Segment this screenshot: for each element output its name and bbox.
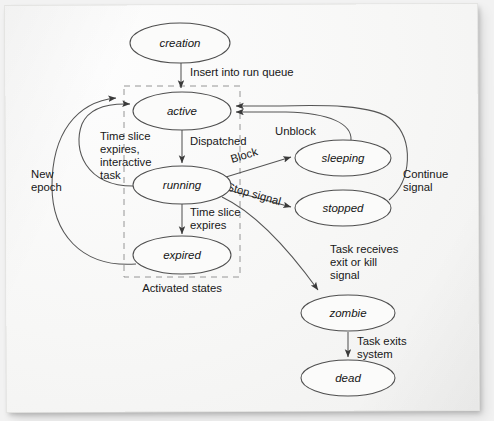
node-active-label: active <box>167 105 197 117</box>
edge-creation-active: Insert into run queue <box>181 63 294 88</box>
edge-label-time-slice-interactive-2: expires, <box>100 143 140 155</box>
node-running[interactable]: running <box>133 166 231 204</box>
edge-label-time-slice-interactive-3: interactive <box>100 156 152 168</box>
node-creation-label: creation <box>160 37 201 49</box>
edge-running-stopped: Stop signal <box>225 180 291 207</box>
edge-label-task-receives-2: exit or kill <box>330 256 377 268</box>
node-expired-label: expired <box>163 249 201 261</box>
edge-label-time-slice-expires-2: expires <box>190 219 227 231</box>
node-sleeping-label: sleeping <box>322 152 365 164</box>
screenshot-root: Activated states Insert into run queue D… <box>0 0 494 421</box>
node-dead[interactable]: dead <box>301 360 395 396</box>
edge-label-block: Block <box>229 145 259 165</box>
edge-label-time-slice-interactive-4: task <box>100 169 121 181</box>
state-diagram-canvas: Activated states Insert into run queue D… <box>0 0 494 421</box>
edge-sleeping-active: Unblock <box>236 112 351 140</box>
node-active[interactable]: active <box>133 92 231 130</box>
node-zombie-label: zombie <box>328 307 366 319</box>
edge-label-new-epoch-2: epoch <box>31 181 62 193</box>
node-sleeping[interactable]: sleeping <box>295 140 391 176</box>
edge-label-continue-signal-2: signal <box>403 181 433 193</box>
node-expired[interactable]: expired <box>133 236 231 274</box>
edge-expired-active: New epoch <box>31 98 136 264</box>
node-zombie[interactable]: zombie <box>301 295 395 331</box>
edge-label-continue-signal-1: Continue <box>403 168 448 180</box>
edge-label-task-receives-1: Task receives <box>330 243 399 255</box>
edge-expired-active-arc <box>52 98 136 264</box>
edge-label-dispatched: Dispatched <box>190 135 247 147</box>
node-stopped-label: stopped <box>323 202 365 214</box>
edge-label-task-exits-1: Task exits <box>357 335 407 347</box>
edge-label-unblock: Unblock <box>275 125 316 137</box>
node-running-label: running <box>163 179 202 191</box>
edge-label-time-slice-interactive-1: Time slice <box>100 130 150 142</box>
edge-zombie-dead: Task exits system <box>348 332 407 360</box>
edge-running-expired: Time slice expires <box>182 204 240 234</box>
edge-label-new-epoch-1: New <box>31 168 54 180</box>
node-stopped[interactable]: stopped <box>295 190 391 226</box>
edge-label-time-slice-expires-1: Time slice <box>190 206 240 218</box>
edge-running-sleeping: Block <box>226 145 291 177</box>
edge-label-task-receives-3: signal <box>330 269 360 281</box>
node-dead-label: dead <box>335 372 361 384</box>
edge-label-insert-into-run-queue: Insert into run queue <box>190 66 294 78</box>
node-creation[interactable]: creation <box>130 23 230 63</box>
edge-label-task-exits-2: system <box>357 348 393 360</box>
activated-states-label: Activated states <box>142 282 222 294</box>
